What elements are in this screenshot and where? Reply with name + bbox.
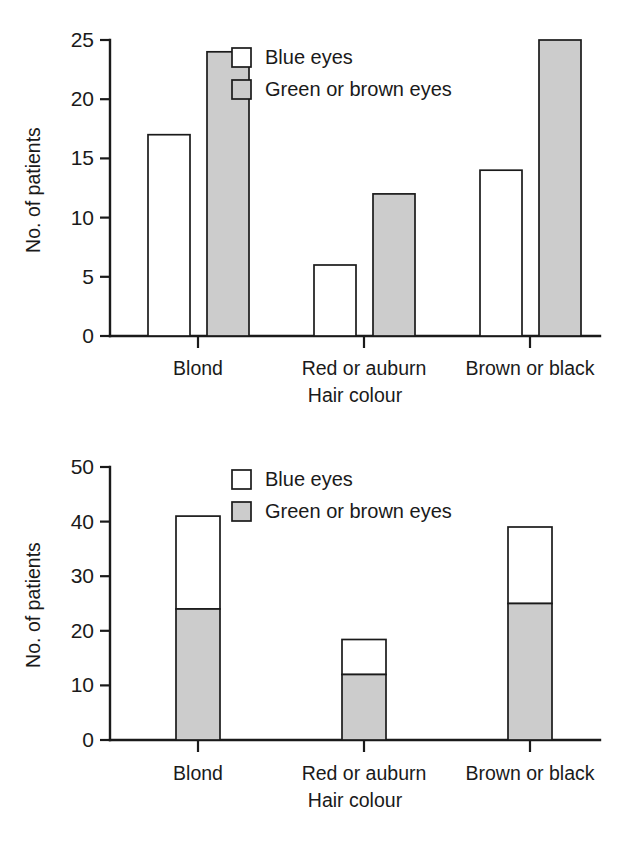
x-category-label-red-auburn: Red or auburn — [302, 357, 427, 379]
stack-brown-black-green-brown-eyes — [508, 604, 552, 741]
stack-red-auburn-green-brown-eyes — [342, 675, 386, 741]
y-axis-ticks-top: 0 5 10 15 20 25 — [71, 28, 110, 347]
legend-swatch-green-brown-eyes — [232, 80, 251, 99]
x-category-label-blond: Blond — [173, 357, 223, 379]
legend-swatch-green-brown-eyes — [232, 502, 251, 521]
y-tick-label-10: 10 — [71, 673, 94, 696]
grouped-bar-chart-svg: No. of patients 0 5 10 15 20 25 — [0, 0, 620, 420]
stacked-bar-blond — [176, 516, 220, 740]
y-tick-label-20: 20 — [71, 619, 94, 642]
stack-red-auburn-blue-eyes — [342, 640, 386, 675]
y-tick-label-15: 15 — [71, 146, 94, 169]
figure-container: No. of patients 0 5 10 15 20 25 — [0, 0, 620, 844]
y-tick-label-0: 0 — [82, 728, 94, 751]
stacked-bar-brown-black — [508, 527, 552, 740]
x-axis-ticks-bottom — [198, 740, 530, 752]
y-tick-label-5: 5 — [82, 265, 94, 288]
x-axis-title-bottom: Hair colour — [308, 789, 403, 811]
bar-group-brown-black-top — [480, 40, 581, 336]
x-category-label-blond: Blond — [173, 762, 223, 784]
bar-blond-blue-eyes — [148, 135, 190, 336]
legend-label-green-brown-eyes: Green or brown eyes — [265, 78, 452, 100]
stack-brown-black-blue-eyes — [508, 527, 552, 604]
stacked-bar-red-auburn — [342, 640, 386, 741]
y-tick-label-25: 25 — [71, 28, 94, 51]
chart-panel-stacked: No. of patients 0 10 20 30 40 50 — [0, 420, 620, 844]
x-category-label-brown-black: Brown or black — [466, 762, 595, 784]
stacked-bar-chart-svg: No. of patients 0 10 20 30 40 50 — [0, 420, 620, 844]
stack-blond-blue-eyes — [176, 516, 220, 609]
y-axis-ticks-bottom: 0 10 20 30 40 50 — [71, 455, 110, 751]
x-category-label-brown-black: Brown or black — [466, 357, 595, 379]
x-axis-title-top: Hair colour — [308, 384, 403, 406]
legend-label-blue-eyes: Blue eyes — [265, 46, 353, 68]
stack-blond-green-brown-eyes — [176, 609, 220, 740]
bar-brown-black-blue-eyes — [480, 170, 522, 336]
chart-panel-grouped: No. of patients 0 5 10 15 20 25 — [0, 0, 620, 420]
legend-swatch-blue-eyes — [232, 48, 251, 67]
y-tick-label-10: 10 — [71, 206, 94, 229]
bar-group-red-auburn-top — [314, 194, 415, 336]
bar-red-auburn-green-brown-eyes — [373, 194, 415, 336]
y-tick-label-30: 30 — [71, 564, 94, 587]
x-axis-ticks-top — [198, 336, 530, 348]
legend-swatch-blue-eyes — [232, 470, 251, 489]
bar-red-auburn-blue-eyes — [314, 265, 356, 336]
bar-brown-black-green-brown-eyes — [539, 40, 581, 336]
y-tick-label-50: 50 — [71, 455, 94, 478]
x-category-label-red-auburn: Red or auburn — [302, 762, 427, 784]
y-tick-label-20: 20 — [71, 87, 94, 110]
y-axis-title-bottom: No. of patients — [22, 542, 44, 668]
legend-top: Blue eyes Green or brown eyes — [232, 46, 452, 100]
legend-label-green-brown-eyes: Green or brown eyes — [265, 500, 452, 522]
y-tick-label-40: 40 — [71, 510, 94, 533]
legend-bottom: Blue eyes Green or brown eyes — [232, 468, 452, 522]
legend-label-blue-eyes: Blue eyes — [265, 468, 353, 490]
y-tick-label-0: 0 — [82, 324, 94, 347]
y-axis-title-top: No. of patients — [22, 127, 44, 253]
